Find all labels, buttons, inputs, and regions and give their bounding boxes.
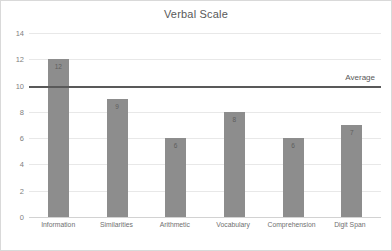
y-tick-label-6: 6 (20, 134, 24, 143)
y-tick-label-14: 14 (16, 29, 24, 38)
average-line (29, 86, 381, 88)
y-tick-label-10: 10 (16, 81, 24, 90)
bar[interactable]: 12 (48, 59, 69, 217)
x-axis-label: Similarities (87, 221, 145, 228)
bar-value-label: 8 (224, 116, 245, 123)
bar-value-label: 6 (165, 142, 186, 149)
bar[interactable]: 6 (165, 138, 186, 217)
average-line-label: Average (345, 73, 375, 82)
bar[interactable]: 7 (341, 125, 362, 217)
bar-value-label: 12 (48, 63, 69, 70)
bar-slot: 12 (29, 33, 88, 217)
x-axis-labels: InformationSimilaritiesArithmeticVocabul… (29, 221, 379, 228)
bar-slot: 8 (205, 33, 264, 217)
chart-container: Verbal Scale 02468101214 1296867 Average… (0, 0, 392, 251)
chart-title: Verbal Scale (1, 8, 391, 20)
bar[interactable]: 6 (283, 138, 304, 217)
bar-slot: 7 (322, 33, 381, 217)
bar-value-label: 9 (107, 103, 128, 110)
gridline-0 (29, 217, 381, 218)
y-tick-label-2: 2 (20, 186, 24, 195)
bar[interactable]: 8 (224, 112, 245, 217)
y-tick-label-0: 0 (20, 213, 24, 222)
bar-value-label: 7 (341, 129, 362, 136)
x-axis-label: Digit Span (321, 221, 379, 228)
plot-area: 02468101214 1296867 Average (29, 33, 381, 217)
bar[interactable]: 9 (107, 99, 128, 217)
y-tick-label-12: 12 (16, 55, 24, 64)
bar-series: 1296867 (29, 33, 381, 217)
bar-slot: 6 (264, 33, 323, 217)
bar-slot: 6 (146, 33, 205, 217)
x-axis-label: Arithmetic (146, 221, 204, 228)
y-tick-label-4: 4 (20, 160, 24, 169)
x-axis-label: Comprehension (262, 221, 320, 228)
x-axis-label: Vocabulary (204, 221, 262, 228)
bar-value-label: 6 (283, 142, 304, 149)
bar-slot: 9 (88, 33, 147, 217)
x-axis-label: Information (29, 221, 87, 228)
y-tick-label-8: 8 (20, 107, 24, 116)
